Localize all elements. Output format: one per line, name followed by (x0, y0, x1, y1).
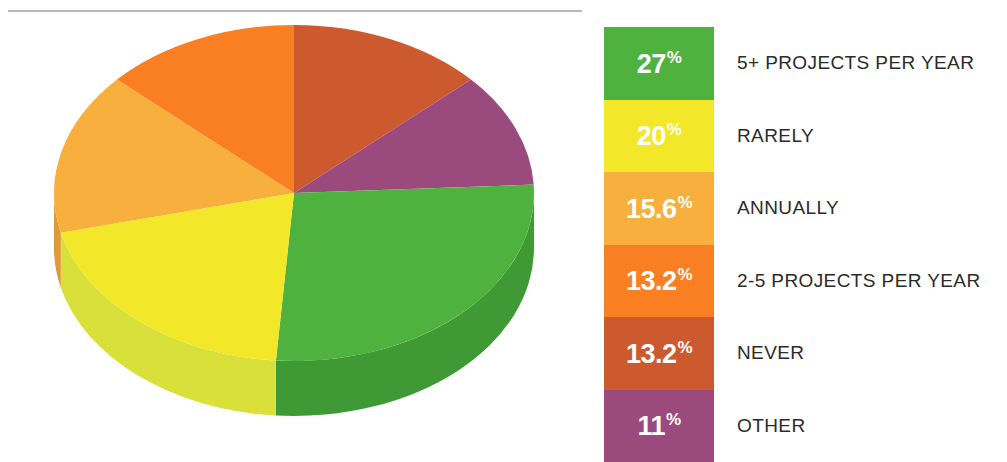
legend-value-annually: 15.6% (626, 194, 692, 223)
legend-item-annually[interactable]: 15.6% ANNUALLY (604, 172, 1007, 245)
legend-label-annually: ANNUALLY (714, 197, 839, 219)
legend-item-other[interactable]: 11% OTHER (604, 390, 1007, 462)
legend-swatch-annually: 15.6% (604, 172, 714, 245)
legend-swatch-rarely: 20% (604, 100, 714, 173)
legend: 27% 5+ PROJECTS PER YEAR 20% RARELY 15.6… (604, 27, 1007, 462)
legend-label-never: NEVER (714, 342, 804, 364)
pie-chart-svg (30, 20, 590, 462)
legend-label-5-plus-projects: 5+ PROJECTS PER YEAR (714, 52, 974, 74)
legend-label-2-5-projects: 2-5 PROJECTS PER YEAR (714, 270, 981, 292)
legend-item-rarely[interactable]: 20% RARELY (604, 100, 1007, 173)
legend-value-never: 13.2% (626, 339, 692, 368)
legend-value-rarely: 20% (637, 121, 682, 150)
header-divider (8, 10, 582, 12)
legend-value-5-plus-projects: 27% (637, 49, 682, 78)
legend-swatch-5-plus-projects: 27% (604, 27, 714, 100)
legend-label-rarely: RARELY (714, 125, 814, 147)
legend-swatch-other: 11% (604, 390, 714, 462)
pie-chart (30, 20, 590, 462)
legend-item-never[interactable]: 13.2% NEVER (604, 317, 1007, 390)
pie-top-face (54, 25, 534, 361)
legend-label-other: OTHER (714, 415, 806, 437)
legend-swatch-2-5-projects: 13.2% (604, 245, 714, 318)
legend-value-other: 11% (637, 411, 680, 440)
legend-item-2-5-projects[interactable]: 13.2% 2-5 PROJECTS PER YEAR (604, 245, 1007, 318)
legend-value-2-5-projects: 13.2% (626, 266, 692, 295)
legend-swatch-never: 13.2% (604, 317, 714, 390)
legend-item-5-plus-projects[interactable]: 27% 5+ PROJECTS PER YEAR (604, 27, 1007, 100)
